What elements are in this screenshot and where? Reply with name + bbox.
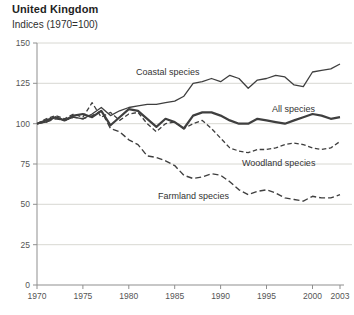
- series-label-farmland-species: Farmland species: [158, 191, 230, 201]
- y-tick-label: 50: [21, 199, 31, 209]
- x-tick-label: 2000: [303, 291, 322, 301]
- x-tick-label: 1990: [211, 291, 230, 301]
- x-tick-label: 2003: [331, 291, 350, 301]
- series-label-woodland-species: Woodland species: [242, 158, 316, 168]
- y-tick-label: 0: [25, 280, 30, 290]
- y-tick-label: 100: [16, 119, 30, 129]
- x-tick-label: 1985: [165, 291, 184, 301]
- chart-panel: United Kingdom Indices (1970=100) 025507…: [0, 0, 354, 315]
- x-tick-label: 1970: [28, 291, 47, 301]
- y-tick-label: 25: [21, 240, 31, 250]
- y-tick-label: 125: [16, 78, 30, 88]
- series-line-farmland-species: [37, 111, 340, 201]
- series-label-coastal-species: Coastal species: [136, 67, 200, 77]
- x-tick-label: 1980: [119, 291, 138, 301]
- x-tick-label: 1975: [73, 291, 92, 301]
- y-tick-label: 75: [21, 159, 31, 169]
- x-tick-label: 1995: [257, 291, 276, 301]
- line-chart: 0255075100125150197019751980198519901995…: [0, 0, 354, 315]
- series-label-all-species: All species: [272, 104, 316, 114]
- y-tick-label: 150: [16, 38, 30, 48]
